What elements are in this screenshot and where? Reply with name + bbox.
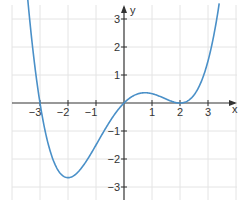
y-tick-label: −1 xyxy=(107,125,120,137)
y-tick-label: −2 xyxy=(107,153,120,165)
y-tick-label: −3 xyxy=(107,181,120,193)
y-tick-label: 1 xyxy=(114,69,120,81)
x-axis-label: x xyxy=(232,103,238,115)
y-axis-arrow-icon xyxy=(121,5,127,13)
y-tick-label: 3 xyxy=(114,13,120,25)
function-graph: −3−2−1123−3−2−1123 x y xyxy=(0,0,243,211)
x-tick-label: 1 xyxy=(149,106,155,118)
x-tick-label: −3 xyxy=(29,106,42,118)
function-curve xyxy=(27,0,219,178)
y-axis-label: y xyxy=(130,4,136,16)
y-tick-label: 2 xyxy=(114,41,120,53)
x-tick-label: −1 xyxy=(85,106,98,118)
x-tick-label: −2 xyxy=(57,106,70,118)
x-tick-label: 3 xyxy=(205,106,211,118)
x-tick-label: 2 xyxy=(177,106,183,118)
